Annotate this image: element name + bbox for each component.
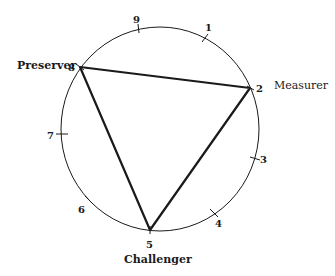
triad-triangle: [80, 67, 250, 230]
point-5-label: 5: [146, 239, 153, 250]
preserver-label: Preserver: [17, 59, 76, 72]
point-9-label: 9: [133, 14, 140, 25]
challenger-label: Challenger: [124, 253, 192, 266]
tick-marks: [56, 24, 260, 234]
tick-9: [138, 24, 139, 33]
role-labels: Preserver Measurer Challenger: [17, 59, 329, 266]
point-1-label: 1: [205, 22, 212, 33]
tick-6: [85, 196, 93, 204]
point-numbers: 1 2 3 4 5 6 7 8 9: [47, 14, 267, 250]
tick-1: [202, 34, 208, 42]
point-7-label: 7: [47, 130, 54, 141]
point-6-label: 6: [78, 204, 85, 215]
measurer-label: Measurer: [274, 79, 329, 92]
point-3-label: 3: [260, 154, 267, 165]
point-2-label: 2: [256, 83, 263, 94]
outer-circle: [61, 27, 259, 231]
point-4-label: 4: [215, 218, 222, 229]
enneagram-diagram: 1 2 3 4 5 6 7 8 9 Preserver Measurer Cha…: [0, 0, 335, 276]
